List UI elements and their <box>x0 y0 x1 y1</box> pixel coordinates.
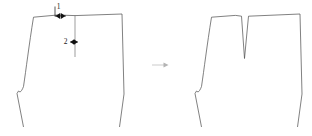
after-waistline-left-path <box>212 15 242 17</box>
dim1-label: 1 <box>57 2 61 11</box>
before-crotch-curve-path <box>17 17 34 127</box>
transition-arrow <box>152 62 169 67</box>
pattern-diagram-canvas: 1 2 <box>0 0 312 136</box>
panel-after <box>195 14 302 127</box>
before-side-seam-path <box>120 14 125 127</box>
after-crotch-curve-path <box>195 17 212 127</box>
dimension-marker-dart-depth: 2 <box>64 37 78 46</box>
before-waistline-path <box>34 14 123 17</box>
arrow-right-icon-head <box>164 62 169 67</box>
after-side-seam-path <box>298 14 303 127</box>
pattern-diagram-svg: 1 2 <box>0 0 312 136</box>
dim1-arrowhead-left <box>56 13 61 19</box>
dim2-arrowhead-left <box>70 39 74 44</box>
dim2-label: 2 <box>64 37 68 46</box>
panel-before: 1 2 <box>17 2 124 127</box>
dim1-arrowhead-right <box>61 13 66 19</box>
dim2-arrowhead-right <box>74 39 78 44</box>
after-dart-notch-path <box>242 16 249 58</box>
after-waistline-right-path <box>249 14 301 16</box>
dimension-marker-dart-width: 1 <box>55 2 66 19</box>
